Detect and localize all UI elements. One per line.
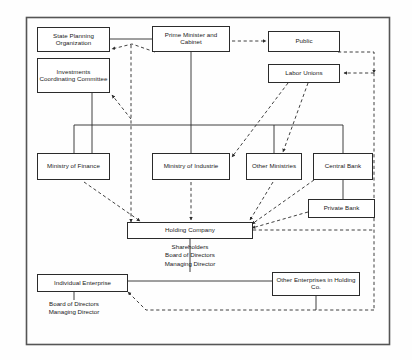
node-labor-unions-label: Labor Unions <box>284 70 323 77</box>
node-investments-coordinating-committee[interactable]: Investments Coordinating Committee <box>37 58 110 93</box>
node-central-bank-label: Central Bank <box>324 163 362 170</box>
node-public[interactable]: Public <box>268 31 340 52</box>
diagram-canvas: State Planning Organization Investments … <box>0 0 412 360</box>
annotation-holding-company-governance: Shareholders Board of Directors Managing… <box>142 243 238 268</box>
node-labor-unions[interactable]: Labor Unions <box>268 64 340 83</box>
edge-dashed-spine-to-investments-committee <box>112 95 131 119</box>
edge-ministry-of-finance-to-holding-company <box>84 182 140 221</box>
edge-other-ministries-to-holding-company <box>250 182 273 220</box>
edge-labor-unions-to-ministry-of-industrie <box>232 83 288 157</box>
edge-central-bank-to-holding-company <box>252 180 314 224</box>
node-ministry-of-industrie[interactable]: Ministry of Industrie <box>152 153 230 180</box>
edge-labor-unions-to-other-ministries <box>283 83 308 152</box>
node-other-enterprises-in-holding-co-label: Other Enterprises in Holding Co. <box>273 277 359 290</box>
node-prime-minister-and-cabinet-label: Prime Minister and Cabinet <box>153 32 229 45</box>
node-ministry-of-industrie-label: Ministry of Industrie <box>163 163 220 170</box>
node-private-bank-label: Private Bank <box>323 205 361 212</box>
node-other-ministries[interactable]: Other Ministries <box>246 153 302 180</box>
node-prime-minister-and-cabinet[interactable]: Prime Minister and Cabinet <box>152 26 230 52</box>
node-central-bank[interactable]: Central Bank <box>313 153 373 180</box>
node-other-ministries-label: Other Ministries <box>251 163 297 170</box>
edge-public-to-outer-loop <box>338 52 374 73</box>
annotation-individual-enterprise-governance: Board of Directors Managing Director <box>26 300 122 317</box>
node-other-enterprises-in-holding-co[interactable]: Other Enterprises in Holding Co. <box>272 272 360 296</box>
edge-private-bank-to-holding-company <box>252 212 308 228</box>
node-investments-coordinating-committee-label: Investments Coordinating Committee <box>38 69 109 82</box>
node-ministry-of-finance-label: Ministry of Finance <box>46 163 101 170</box>
node-ministry-of-finance[interactable]: Ministry of Finance <box>37 153 110 180</box>
edge-prime-minister-to-state-planning-feedback <box>112 44 155 52</box>
node-individual-enterprise-label: Individual Enterprise <box>53 280 112 287</box>
node-state-planning-organization[interactable]: State Planning Organization <box>37 27 110 52</box>
node-holding-company[interactable]: Holding Company <box>127 222 253 239</box>
node-holding-company-label: Holding Company <box>164 227 216 234</box>
node-individual-enterprise[interactable]: Individual Enterprise <box>37 274 128 292</box>
node-private-bank[interactable]: Private Bank <box>308 199 375 218</box>
node-public-label: Public <box>294 38 313 45</box>
node-state-planning-organization-label: State Planning Organization <box>38 33 109 46</box>
